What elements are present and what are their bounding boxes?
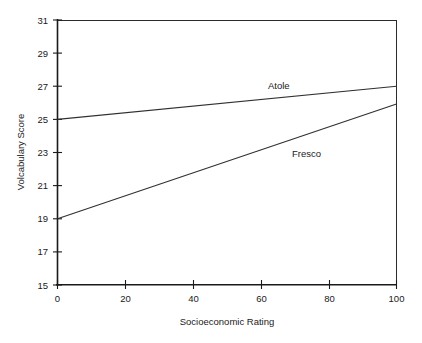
x-tick-label: 0 [55, 293, 60, 304]
x-tick-labels: 0 20 40 60 80 100 [55, 293, 405, 304]
chart-screenshot: 15 17 19 21 23 25 27 29 31 0 20 40 60 80… [0, 0, 422, 343]
y-tick-label: 25 [37, 114, 48, 125]
y-tick-label: 27 [37, 81, 48, 92]
y-tick-label: 29 [37, 48, 48, 59]
x-tick-label: 100 [389, 293, 405, 304]
x-axis-title: Socioeconomic Rating [180, 316, 275, 327]
series-label-atole: Atole [268, 80, 290, 91]
x-tick-label: 40 [188, 293, 199, 304]
x-tick-label: 80 [324, 293, 335, 304]
y-axis-title: Volcabulary Score [15, 114, 26, 191]
series-label-fresco: Fresco [292, 148, 321, 159]
y-tick-label: 21 [37, 180, 48, 191]
y-tick-label: 19 [37, 213, 48, 224]
plot-background [57, 20, 397, 285]
x-tick-label: 60 [256, 293, 267, 304]
y-tick-labels: 15 17 19 21 23 25 27 29 31 [37, 15, 48, 291]
y-tick-label: 23 [37, 147, 48, 158]
y-tick-label: 15 [37, 280, 48, 291]
y-tick-label: 17 [37, 246, 48, 257]
x-tick-label: 20 [120, 293, 131, 304]
line-chart: 15 17 19 21 23 25 27 29 31 0 20 40 60 80… [0, 0, 422, 343]
y-tick-label: 31 [37, 15, 48, 26]
